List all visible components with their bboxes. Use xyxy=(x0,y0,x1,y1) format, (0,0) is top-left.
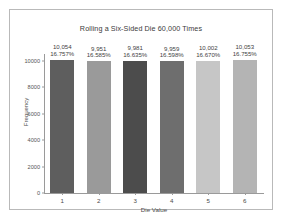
bar xyxy=(160,61,184,193)
plot-area: 0200040006000800010000 10,05416.757%19,9… xyxy=(44,54,263,193)
y-axis-tick-mark xyxy=(42,140,44,141)
bar-data-label: 9,98116.635% xyxy=(123,45,147,59)
bar-group: 9,95916.598%4 xyxy=(160,54,184,193)
x-axis-tick-mark xyxy=(135,193,136,195)
bar-data-label: 10,05416.757% xyxy=(50,44,74,58)
y-axis-tick-label: 2000 xyxy=(28,164,40,170)
bar-data-label: 9,95916.598% xyxy=(160,46,184,60)
x-axis-tick-label: 4 xyxy=(170,197,173,204)
bar-data-label: 9,95116.585% xyxy=(87,46,111,60)
chart-figure: Rolling a Six-Sided Die 60,000 Times Fre… xyxy=(0,0,286,224)
bar xyxy=(196,61,220,193)
x-axis-tick-mark xyxy=(62,193,63,195)
x-axis-tick-label: 5 xyxy=(207,197,210,204)
x-axis-tick-label: 2 xyxy=(97,197,100,204)
bar xyxy=(233,60,257,193)
bar-group: 10,05316.755%6 xyxy=(233,54,257,193)
chart-title: Rolling a Six-Sided Die 60,000 Times xyxy=(9,24,273,33)
y-axis-tick-label: 6000 xyxy=(28,111,40,117)
bar xyxy=(50,60,74,193)
bar-percent-label: 16.757% xyxy=(50,51,74,58)
x-axis-line xyxy=(44,193,264,194)
bar-group: 10,00216.670%5 xyxy=(196,54,220,193)
y-axis-tick-label: 0 xyxy=(37,190,40,196)
bar-percent-label: 16.755% xyxy=(233,51,257,58)
x-axis-tick-label: 3 xyxy=(134,197,137,204)
bar-group: 9,98116.635%3 xyxy=(123,54,147,193)
bar-data-label: 10,00216.670% xyxy=(196,45,220,59)
x-axis-tick-mark xyxy=(208,193,209,195)
y-axis-tick-mark xyxy=(42,113,44,114)
y-axis-tick-mark xyxy=(42,193,44,194)
y-axis-tick-label: 10000 xyxy=(24,58,40,64)
bar xyxy=(123,61,147,193)
bar-percent-label: 16.598% xyxy=(160,52,184,59)
bar-group: 10,05416.757%1 xyxy=(50,54,74,193)
bar-percent-label: 16.635% xyxy=(123,52,147,59)
bar-group: 9,95116.585%2 xyxy=(87,54,111,193)
x-axis-tick-label: 6 xyxy=(243,197,246,204)
x-axis-tick-mark xyxy=(172,193,173,195)
y-axis-tick-mark xyxy=(42,166,44,167)
bar-data-label: 10,05316.755% xyxy=(233,44,257,58)
y-axis-tick-mark xyxy=(42,60,44,61)
bar-percent-label: 16.670% xyxy=(196,52,220,59)
y-axis-tick-label: 4000 xyxy=(28,137,40,143)
y-axis-tick-mark xyxy=(42,87,44,88)
x-axis-tick-mark xyxy=(245,193,246,195)
bar-percent-label: 16.585% xyxy=(87,52,111,59)
x-axis-tick-mark xyxy=(99,193,100,195)
bar xyxy=(87,61,111,193)
x-axis-tick-label: 1 xyxy=(61,197,64,204)
y-axis-tick-label: 8000 xyxy=(28,84,40,90)
x-axis-label: Die Value xyxy=(44,206,264,213)
